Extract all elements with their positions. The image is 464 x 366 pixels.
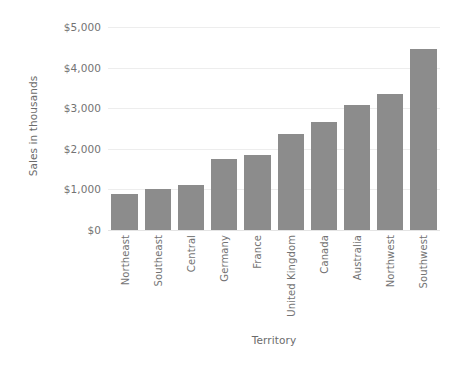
x-axis-title: Territory (108, 334, 440, 346)
x-axis-tick-label: Northwest (385, 235, 396, 287)
bar-slot (108, 27, 141, 230)
bar[interactable] (178, 185, 204, 230)
bar-slot (141, 27, 174, 230)
x-axis-tick-slot: Southwest (407, 230, 440, 334)
bar-chart: Sales in thousands $0$1,000$2,000$3,000$… (0, 0, 464, 366)
y-axis-tick-label: $3,000 (64, 102, 101, 114)
bar[interactable] (311, 122, 337, 230)
x-axis-tick-label: Germany (219, 235, 230, 282)
x-axis-tick-slot: Central (174, 230, 207, 334)
bar[interactable] (278, 134, 304, 230)
y-axis-tick-label: $4,000 (64, 62, 101, 74)
bar[interactable] (145, 189, 171, 230)
x-axis-tick-slot: Northeast (108, 230, 141, 334)
x-axis-tick-slot: Germany (208, 230, 241, 334)
bar-slot (174, 27, 207, 230)
bar-slot (340, 27, 373, 230)
bar[interactable] (111, 194, 137, 230)
bar-slot (307, 27, 340, 230)
y-axis-title: Sales in thousands (26, 6, 40, 246)
y-axis-tick-label: $1,000 (64, 183, 101, 195)
x-axis-tick-label: Northeast (119, 235, 130, 285)
bar-slot (208, 27, 241, 230)
x-axis-tick-label: France (252, 235, 263, 269)
bar-slot (407, 27, 440, 230)
bar-series (108, 27, 440, 230)
bar[interactable] (244, 155, 270, 230)
bar[interactable] (377, 94, 403, 230)
x-axis-tick-slot: France (241, 230, 274, 334)
x-axis-tick-slot: Australia (340, 230, 373, 334)
bar-slot (274, 27, 307, 230)
plot-area: $0$1,000$2,000$3,000$4,000$5,000 (108, 27, 440, 230)
x-axis-tick-label: Central (186, 235, 197, 272)
x-axis-tick-label: Southeast (152, 235, 163, 286)
x-axis-tick-label: Australia (352, 235, 363, 280)
bar-slot (241, 27, 274, 230)
bar[interactable] (344, 105, 370, 230)
x-axis-tick-label: United Kingdom (285, 235, 296, 317)
y-axis-tick-label: $0 (87, 224, 101, 236)
x-axis-tick-slot: Southeast (141, 230, 174, 334)
bar[interactable] (410, 49, 436, 230)
x-axis-tick-label: Southwest (418, 235, 429, 288)
x-axis-tick-slot: Northwest (374, 230, 407, 334)
x-axis-tick-labels: NortheastSoutheastCentralGermanyFranceUn… (108, 230, 440, 334)
y-axis-tick-label: $5,000 (64, 21, 101, 33)
bar[interactable] (211, 159, 237, 230)
bar-slot (374, 27, 407, 230)
y-axis-tick-label: $2,000 (64, 143, 101, 155)
x-axis-tick-slot: United Kingdom (274, 230, 307, 334)
x-axis-tick-label: Canada (318, 235, 329, 274)
x-axis-tick-slot: Canada (307, 230, 340, 334)
